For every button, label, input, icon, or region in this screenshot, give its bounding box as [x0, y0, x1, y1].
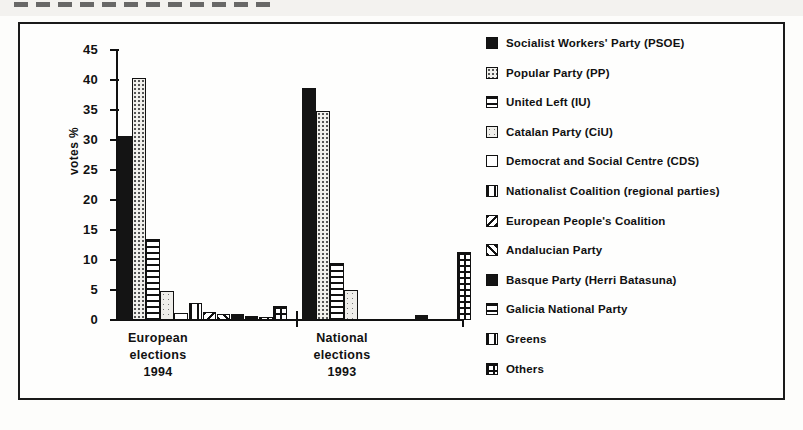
legend-item-1[interactable]: Popular Party (PP) [486, 64, 610, 82]
y-tick-mark-25 [110, 169, 119, 171]
bar-g0-s1 [132, 78, 146, 320]
legend-item-10[interactable]: Greens [486, 330, 547, 348]
legend-item-11[interactable]: Others [486, 360, 544, 378]
legend-swatch-icon-4 [486, 155, 498, 167]
bar-g0-s7 [217, 314, 231, 320]
y-tick-label-45: 45 [64, 42, 98, 57]
bar-g0-s5 [189, 303, 203, 320]
group-label-line-2: elections [83, 347, 233, 364]
group-label-line-3: 1993 [267, 364, 417, 381]
legend-item-3[interactable]: Catalan Party (CiU) [486, 123, 613, 141]
legend-label-0: Socialist Workers' Party (PSOE) [506, 37, 684, 49]
legend-item-7[interactable]: Andalucian Party [486, 241, 602, 259]
bar-g0-s10 [259, 317, 273, 320]
bar-g0-s0 [118, 136, 132, 320]
bar-g1-s1 [316, 111, 330, 320]
group-label-line-2: elections [267, 347, 417, 364]
y-tick-mark-0 [110, 319, 119, 321]
bar-g1-s8 [415, 315, 429, 320]
y-tick-label-15: 15 [64, 222, 98, 237]
legend-swatch-icon-6 [486, 215, 498, 227]
legend-swatch-icon-7 [486, 244, 498, 256]
chart-frame: votes % 454035302520151050 Europeanelect… [18, 22, 785, 400]
legend-label-6: European People's Coalition [506, 215, 666, 227]
legend-item-2[interactable]: United Left (IU) [486, 93, 591, 111]
y-tick-mark-35 [110, 109, 119, 111]
y-tick-mark-40 [110, 79, 119, 81]
legend-item-9[interactable]: Galicia National Party [486, 300, 628, 318]
y-tick-mark-30 [110, 139, 119, 141]
y-tick-label-30: 30 [64, 132, 98, 147]
group-label-european: Europeanelections1994 [83, 330, 233, 381]
group-label-national: Nationalelections1993 [267, 330, 417, 381]
bar-chart-plot: votes % 454035302520151050 Europeanelect… [20, 24, 490, 400]
bar-g0-s11 [273, 306, 287, 320]
legend-swatch-icon-2 [486, 96, 498, 108]
y-tick-label-40: 40 [64, 72, 98, 87]
y-tick-mark-5 [110, 289, 119, 291]
legend-label-3: Catalan Party (CiU) [506, 126, 613, 138]
group-label-line-3: 1994 [83, 364, 233, 381]
legend-label-5: Nationalist Coalition (regional parties) [506, 185, 720, 197]
legend-label-11: Others [506, 363, 544, 375]
legend-swatch-icon-9 [486, 303, 498, 315]
y-tick-mark-20 [110, 199, 119, 201]
legend-swatch-icon-0 [486, 37, 498, 49]
legend-item-8[interactable]: Basque Party (Herri Batasuna) [486, 271, 677, 289]
y-tick-label-20: 20 [64, 192, 98, 207]
legend-label-4: Democrat and Social Centre (CDS) [506, 155, 699, 167]
y-tick-label-0: 0 [64, 312, 98, 327]
bar-g0-s4 [174, 313, 188, 320]
y-tick-label-10: 10 [64, 252, 98, 267]
legend-label-8: Basque Party (Herri Batasuna) [506, 274, 677, 286]
bar-g0-s9 [245, 316, 259, 320]
bar-g1-s2 [330, 263, 344, 320]
y-tick-label-25: 25 [64, 162, 98, 177]
legend-swatch-icon-1 [486, 67, 498, 79]
y-tick-mark-15 [110, 229, 119, 231]
legend-label-2: United Left (IU) [506, 96, 591, 108]
y-tick-mark-45 [110, 49, 119, 51]
y-tick-label-5: 5 [64, 282, 98, 297]
bar-g1-s0 [302, 88, 316, 320]
legend-label-7: Andalucian Party [506, 244, 602, 256]
legend-item-6[interactable]: European People's Coalition [486, 212, 666, 230]
legend-swatch-icon-8 [486, 274, 498, 286]
bar-g1-s11 [457, 252, 471, 320]
chart-legend: Socialist Workers' Party (PSOE)Popular P… [486, 34, 786, 394]
y-tick-label-35: 35 [64, 102, 98, 117]
legend-item-5[interactable]: Nationalist Coalition (regional parties) [486, 182, 720, 200]
bar-g0-s2 [146, 239, 160, 320]
legend-item-0[interactable]: Socialist Workers' Party (PSOE) [486, 34, 684, 52]
legend-label-10: Greens [506, 333, 547, 345]
legend-swatch-icon-3 [486, 126, 498, 138]
legend-label-9: Galicia National Party [506, 303, 628, 315]
bar-g0-s3 [160, 291, 174, 320]
legend-item-4[interactable]: Democrat and Social Centre (CDS) [486, 152, 699, 170]
group-label-line-1: National [267, 330, 417, 347]
y-tick-mark-10 [110, 259, 119, 261]
bar-g0-s6 [203, 312, 217, 320]
bar-g1-s3 [344, 290, 358, 320]
page-scan-edge [0, 0, 803, 16]
legend-label-1: Popular Party (PP) [506, 67, 610, 79]
legend-swatch-icon-11 [486, 363, 498, 375]
legend-swatch-icon-5 [486, 185, 498, 197]
bar-g0-s8 [231, 314, 245, 320]
bars-container [116, 50, 466, 320]
group-label-line-1: European [83, 330, 233, 347]
legend-swatch-icon-10 [486, 333, 498, 345]
